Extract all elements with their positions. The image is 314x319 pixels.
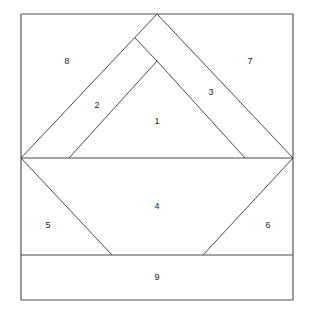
region-label-5: 5 xyxy=(45,220,50,230)
region-label-2: 2 xyxy=(94,100,99,110)
polygon-dissection-diagram: 1 2 3 4 5 6 7 8 9 xyxy=(0,0,314,319)
region-label-9: 9 xyxy=(154,272,159,282)
region-label-1: 1 xyxy=(154,116,159,126)
region-label-4: 4 xyxy=(154,201,159,211)
region-label-6: 6 xyxy=(265,220,270,230)
region-label-7: 7 xyxy=(247,56,252,66)
region-label-8: 8 xyxy=(64,56,69,66)
figure-canvas: 1 2 3 4 5 6 7 8 9 xyxy=(0,0,314,319)
region-label-3: 3 xyxy=(208,87,213,97)
